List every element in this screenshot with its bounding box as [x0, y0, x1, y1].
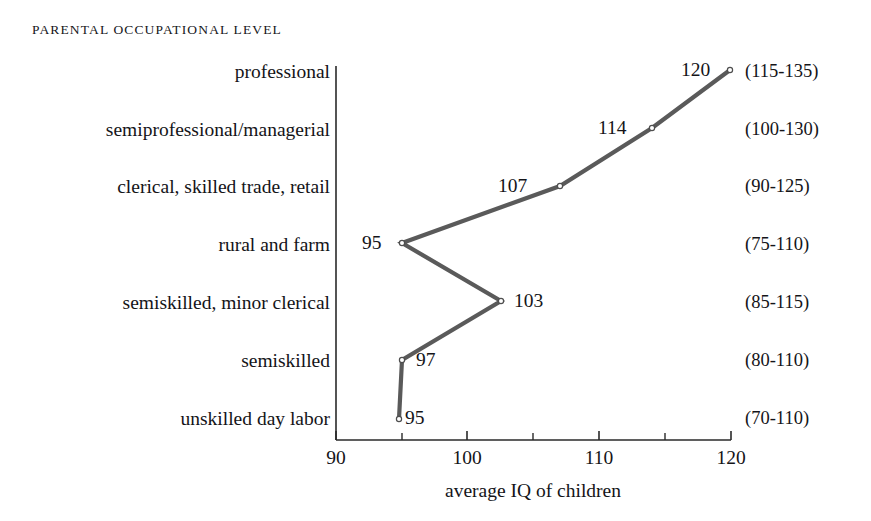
x-tick-label-110: 110 [585, 448, 614, 468]
x-axis-minor-ticks [402, 433, 665, 440]
chart-root: PARENTAL OCCUPATIONAL LEVEL professional… [0, 0, 871, 521]
plot-area [0, 0, 871, 521]
value-label-semiskilled: 97 [416, 350, 436, 370]
value-label-rural-and-farm: 95 [362, 233, 382, 253]
data-point-professional [727, 67, 732, 72]
data-point-rural-and-farm [399, 240, 404, 245]
data-point-clerical-skilled-trade-retail [557, 183, 562, 188]
x-tick-label-100: 100 [452, 448, 481, 468]
data-line [399, 70, 730, 419]
value-label-professional: 120 [681, 60, 710, 80]
value-label-unskilled-day-labor: 95 [405, 408, 425, 428]
data-point-semiskilled [399, 357, 404, 362]
data-point-markers [396, 67, 732, 421]
value-label-semiprofessional-managerial: 114 [598, 118, 627, 138]
x-axis-title: average IQ of children [445, 481, 621, 501]
value-label-semiskilled-minor-clerical: 103 [514, 291, 543, 311]
data-point-unskilled-day-labor [396, 416, 401, 421]
x-tick-label-90: 90 [326, 448, 346, 468]
value-label-clerical-skilled-trade-retail: 107 [498, 176, 527, 196]
data-point-semiskilled-minor-clerical [498, 298, 503, 303]
data-point-semiprofessional-managerial [649, 125, 654, 130]
x-tick-label-120: 120 [716, 448, 745, 468]
